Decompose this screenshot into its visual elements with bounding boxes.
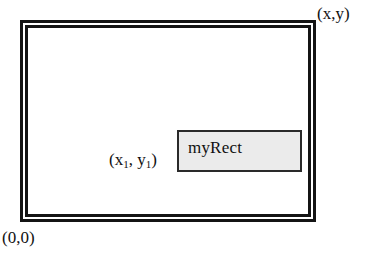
coordinate-frame-gap: myRect [23, 23, 313, 219]
my-rect-origin-mid: , y [129, 150, 146, 169]
my-rect-origin-open: (x [109, 150, 123, 169]
my-rect-origin-close: ) [151, 150, 157, 169]
my-rect-origin-subscript-x: 1 [123, 158, 129, 170]
my-rect-origin-label: (x1, y1) [109, 150, 157, 170]
my-rect-label: myRect [188, 138, 242, 158]
coordinate-frame-inner-rule: myRect [25, 25, 311, 217]
vertex-label-top-right: (x,y) [317, 4, 350, 24]
my-rect-shape[interactable]: myRect [177, 130, 302, 172]
coordinate-frame: myRect [20, 20, 316, 222]
my-rect-origin-subscript-y: 1 [146, 158, 152, 170]
vertex-label-origin: (0,0) [2, 228, 35, 248]
diagram-canvas: myRect (x,y) (0,0) (x1, y1) [0, 0, 370, 255]
